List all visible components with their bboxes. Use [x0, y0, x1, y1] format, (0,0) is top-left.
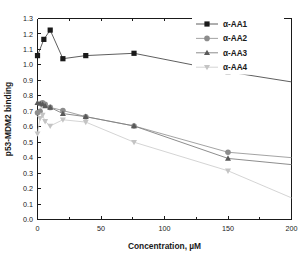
- legend-marker-icon: [204, 21, 209, 26]
- data-point: [60, 56, 65, 61]
- data-point: [225, 149, 231, 155]
- series-2: [35, 100, 292, 158]
- y-tick-label: 1.1: [23, 45, 33, 54]
- data-point: [48, 27, 53, 32]
- legend-label: α-AA2: [223, 34, 248, 43]
- chart-canvas: 0.00.10.20.30.40.50.60.70.80.91.01.11.21…: [0, 0, 305, 263]
- legend-label: α-AA1: [223, 20, 248, 29]
- series-line: [38, 103, 292, 165]
- y-axis-title: p53-MDM2 binding: [3, 82, 13, 156]
- y-tick-label: 0.4: [23, 153, 33, 162]
- data-point: [47, 124, 53, 129]
- y-tick-label: 1.2: [23, 30, 33, 39]
- y-tick-label: 0.5: [23, 138, 33, 147]
- y-tick-label: 0.6: [23, 122, 33, 131]
- chart-legend: α-AA1α-AA2α-AA3α-AA4: [192, 15, 284, 75]
- y-tick-label: 0.7: [23, 107, 33, 116]
- y-tick-label: 0.2: [23, 184, 33, 193]
- legend-marker-icon: [204, 36, 210, 42]
- x-tick-label: 150: [222, 224, 234, 233]
- chart-figure: 0.00.10.20.30.40.50.60.70.80.91.01.11.21…: [0, 0, 305, 263]
- series-3: [35, 100, 292, 165]
- y-tick-label: 0.0: [23, 215, 33, 224]
- x-axis-title: Concentration, µM: [128, 241, 201, 251]
- y-tick-label: 1.0: [23, 60, 33, 69]
- legend-label: α-AA4: [223, 63, 248, 72]
- y-tick-label: 0.1: [23, 200, 33, 209]
- series-line: [38, 103, 292, 158]
- x-tick-label: 200: [286, 224, 298, 233]
- y-tick-label: 1.3: [23, 14, 33, 23]
- series-4: [35, 113, 292, 198]
- legend-label: α-AA3: [223, 49, 248, 58]
- series-line: [38, 115, 292, 198]
- y-tick-label: 0.9: [23, 76, 33, 85]
- data-point: [35, 53, 40, 58]
- x-tick-label: 100: [159, 224, 171, 233]
- y-tick-label: 0.3: [23, 169, 33, 178]
- y-tick-label: 0.8: [23, 91, 33, 100]
- data-point: [131, 51, 136, 56]
- data-point: [35, 131, 41, 136]
- data-point: [225, 168, 231, 173]
- data-point: [83, 53, 88, 58]
- x-tick-label: 50: [97, 224, 105, 233]
- data-point: [41, 37, 46, 42]
- x-tick-label: 0: [36, 224, 40, 233]
